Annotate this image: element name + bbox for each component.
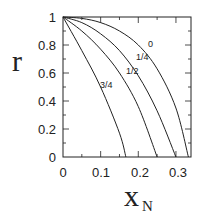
y-tick-0: 0 <box>49 150 56 165</box>
plot-frame <box>63 17 191 157</box>
y-tick-0.8: 0.8 <box>38 38 56 53</box>
x-tick-0.2: 0.2 <box>131 165 149 180</box>
y-tick-labels: 0 0.2 0.4 0.6 0.8 1 <box>38 10 56 165</box>
curve-label-0: 0 <box>148 39 153 49</box>
tick-marks <box>63 17 191 157</box>
y-tick-0.6: 0.6 <box>38 66 56 81</box>
y-tick-1: 1 <box>49 10 56 25</box>
curves <box>63 17 188 157</box>
x-tick-0.3: 0.3 <box>169 165 187 180</box>
x-tick-0: 0 <box>59 165 66 180</box>
y-axis-title: r <box>12 44 22 77</box>
chart: 0 0.2 0.4 0.6 0.8 1 0 0.1 0.2 0.3 r x N … <box>0 0 205 216</box>
curve-label-3-4: 3/4 <box>100 80 113 90</box>
curve-labels: 0 1/4 1/2 3/4 <box>100 39 153 90</box>
x-axis-title: x <box>124 179 139 212</box>
curve-label-1-2: 1/2 <box>126 66 139 76</box>
y-tick-0.2: 0.2 <box>38 122 56 137</box>
curve-1-4 <box>63 17 176 157</box>
curve-0 <box>63 17 188 157</box>
y-tick-0.4: 0.4 <box>38 94 56 109</box>
x-tick-0.1: 0.1 <box>92 165 110 180</box>
x-tick-labels: 0 0.1 0.2 0.3 <box>59 165 187 180</box>
curve-label-1-4: 1/4 <box>136 52 149 62</box>
x-axis-subscript: N <box>142 198 153 214</box>
curve-3-4 <box>63 17 126 157</box>
